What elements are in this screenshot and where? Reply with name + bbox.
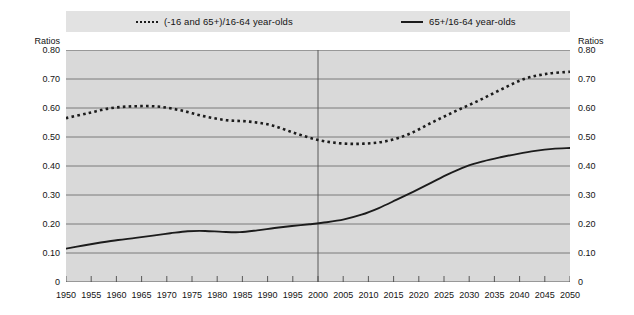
legend-item-dependency-ratio: (-16 and 65+)/16-64 year-olds (136, 11, 293, 32)
legend-item-label: 65+/16-64 year-olds (429, 16, 516, 27)
y-tick-label-right: 0.40 (578, 161, 630, 171)
dotted-line-swatch-icon (136, 17, 158, 26)
y-tick-label-right: 0.20 (578, 219, 630, 229)
y-tick-label-right: 0.60 (578, 103, 630, 113)
y-tick-label-left: 0.50 (8, 132, 60, 142)
plot-canvas (66, 50, 570, 282)
y-tick-label-right: 0.80 (578, 45, 630, 55)
y-tick-label-right: 0.50 (578, 132, 630, 142)
y-tick-label-left: 0 (8, 277, 60, 287)
y-tick-label-right: 0.70 (578, 74, 630, 84)
legend-item-label: (-16 and 65+)/16-64 year-olds (164, 16, 293, 27)
y-tick-label-right: 0.10 (578, 248, 630, 258)
y-tick-label-left: 0.40 (8, 161, 60, 171)
y-tick-label-left: 0.70 (8, 74, 60, 84)
x-tick-label: 2050 (553, 290, 587, 300)
y-tick-label-left: 0.30 (8, 190, 60, 200)
y-tick-label-left: 0.80 (8, 45, 60, 55)
y-tick-label-right: 0.30 (578, 190, 630, 200)
chart-figure: (-16 and 65+)/16-64 year-olds 65+/16-64 … (0, 0, 634, 315)
chart-legend: (-16 and 65+)/16-64 year-olds 65+/16-64 … (66, 11, 570, 32)
y-tick-label-left: 0.10 (8, 248, 60, 258)
plot-area (66, 50, 570, 282)
y-tick-label-right: 0 (578, 277, 630, 287)
y-tick-label-left: 0.60 (8, 103, 60, 113)
y-tick-label-left: 0.20 (8, 219, 60, 229)
legend-item-old-age-ratio: 65+/16-64 year-olds (401, 11, 516, 32)
solid-line-swatch-icon (401, 17, 423, 26)
